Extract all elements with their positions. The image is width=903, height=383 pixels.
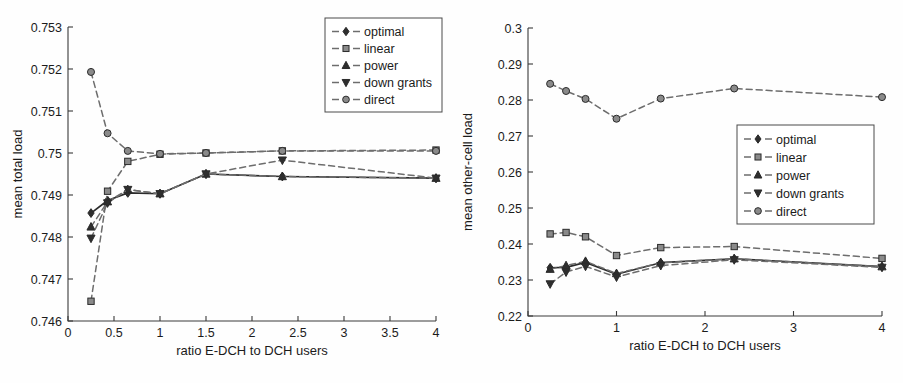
chart-svg-left: 0.7460.7470.7480.7490.750.7510.7520.7530…	[0, 0, 452, 383]
marker-triangle-down	[546, 281, 554, 289]
legend-label-linear: linear	[364, 42, 395, 56]
x-tick-label: 3	[790, 321, 797, 335]
marker-square	[104, 188, 110, 194]
y-tick-label: 0.75	[38, 147, 62, 161]
marker-square	[343, 45, 349, 51]
marker-square	[547, 231, 553, 237]
marker-diamond	[88, 209, 94, 218]
marker-square	[125, 158, 131, 164]
marker-triangle-down	[87, 235, 95, 243]
marker-circle	[124, 147, 131, 154]
y-tick-label: 0.746	[31, 315, 62, 329]
marker-circle	[87, 68, 94, 75]
marker-square	[658, 244, 664, 250]
y-tick-label: 0.748	[31, 231, 62, 245]
y-tick-label: 0.749	[31, 189, 62, 203]
marker-circle	[104, 130, 111, 137]
y-axis-title: mean other-cell load	[460, 113, 475, 231]
y-tick-label: 0.23	[498, 274, 522, 288]
x-tick-label: 0	[525, 321, 532, 335]
legend: optimallinearpowerdown grantsdirect	[325, 18, 442, 112]
x-tick-label: 1	[613, 321, 620, 335]
y-tick-label: 0.27	[498, 130, 522, 144]
y-tick-label: 0.29	[498, 58, 522, 72]
x-tick-label: 2	[249, 326, 256, 340]
x-tick-label: 2.5	[289, 326, 306, 340]
x-axis-title: ratio E-DCH to DCH users	[176, 343, 328, 358]
x-tick-label: 3.5	[381, 326, 398, 340]
x-tick-label: 0.5	[105, 326, 122, 340]
chart-svg-right: 0.220.230.240.250.260.270.280.290.301234…	[452, 0, 903, 383]
marker-square	[582, 234, 588, 240]
x-tick-label: 0	[65, 326, 72, 340]
series-line-down-grants	[91, 160, 436, 238]
x-tick-label: 4	[433, 326, 440, 340]
legend-label-direct: direct	[364, 93, 395, 107]
legend-label-power: power	[364, 59, 398, 73]
marker-triangle-down	[612, 274, 620, 282]
marker-triangle-down	[562, 269, 570, 277]
legend-label-down-grants: down grants	[364, 76, 432, 90]
y-axis-title: mean total load	[10, 130, 25, 219]
marker-square	[613, 252, 619, 258]
x-tick-label: 2	[702, 321, 709, 335]
marker-circle	[156, 150, 163, 157]
marker-square	[879, 255, 885, 261]
series-line-direct	[550, 84, 882, 119]
marker-circle	[582, 95, 589, 102]
chart-panel-right: 0.220.230.240.250.260.270.280.290.301234…	[452, 0, 903, 383]
marker-circle	[613, 115, 620, 122]
marker-square	[88, 298, 94, 304]
y-tick-label: 0.751	[31, 105, 62, 119]
y-tick-label: 0.26	[498, 166, 522, 180]
marker-circle	[878, 94, 885, 101]
y-tick-label: 0.3	[505, 22, 522, 36]
y-tick-label: 0.752	[31, 63, 62, 77]
marker-square	[731, 243, 737, 249]
series-markers-linear	[547, 229, 885, 261]
marker-circle	[547, 80, 554, 87]
legend-label-down-grants: down grants	[776, 187, 844, 201]
x-tick-label: 3	[341, 326, 348, 340]
series-line-power	[91, 174, 436, 227]
marker-circle	[343, 96, 350, 103]
marker-triangle-up	[562, 261, 570, 269]
y-tick-label: 0.22	[498, 310, 522, 324]
marker-circle	[731, 85, 738, 92]
series-markers-down-grants	[87, 157, 440, 243]
x-tick-label: 1	[157, 326, 164, 340]
marker-circle	[755, 208, 762, 215]
legend-label-direct: direct	[776, 205, 807, 219]
marker-circle	[279, 147, 286, 154]
marker-square	[563, 229, 569, 235]
marker-circle	[563, 87, 570, 94]
y-tick-label: 0.24	[498, 238, 522, 252]
series-line-linear	[550, 232, 882, 258]
x-tick-label: 4	[879, 321, 886, 335]
x-axis-title: ratio E-DCH to DCH users	[629, 338, 781, 353]
series-markers-direct	[547, 80, 886, 122]
chart-panel-left: 0.7460.7470.7480.7490.750.7510.7520.7530…	[0, 0, 452, 383]
y-tick-label: 0.25	[498, 202, 522, 216]
legend-label-power: power	[776, 169, 810, 183]
figure-container: 0.7460.7470.7480.7490.750.7510.7520.7530…	[0, 0, 903, 383]
y-tick-label: 0.753	[31, 21, 62, 35]
series-markers-linear	[88, 147, 439, 305]
legend-label-optimal: optimal	[364, 25, 404, 39]
legend-label-linear: linear	[776, 151, 807, 165]
y-tick-label: 0.747	[31, 273, 62, 287]
marker-circle	[432, 147, 439, 154]
marker-square	[755, 154, 761, 160]
y-tick-label: 0.28	[498, 94, 522, 108]
x-tick-label: 1.5	[197, 326, 214, 340]
series-markers-power	[87, 170, 440, 230]
legend-label-optimal: optimal	[776, 133, 816, 147]
legend: optimallinearpowerdown grantsdirect	[737, 125, 874, 224]
series-line-optimal	[91, 174, 436, 213]
marker-circle	[657, 95, 664, 102]
marker-circle	[202, 149, 209, 156]
